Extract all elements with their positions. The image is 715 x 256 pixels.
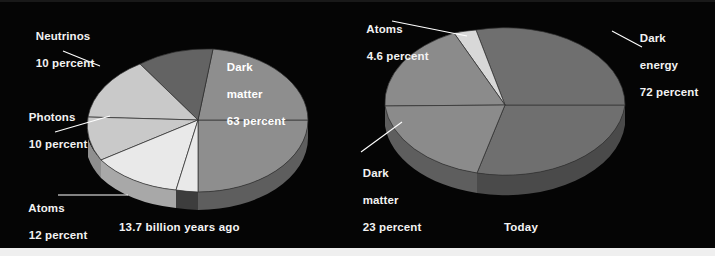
- left-label-photons-percent: 10 percent: [29, 138, 88, 150]
- right-label-dark-energy-l2: energy: [640, 59, 678, 71]
- right-label-atoms: Atoms 4.6 percent: [347, 9, 429, 77]
- left-label-dark-matter-l2: matter: [227, 88, 263, 100]
- left-label-dark-matter: Dark matter 63 percent: [207, 47, 285, 142]
- right-label-dark-energy-l1: Dark: [640, 32, 666, 44]
- right-label-dark-energy: Dark energy 72 percent: [620, 18, 698, 113]
- left-label-dark-matter-percent: 63 percent: [227, 115, 286, 127]
- right-label-dark-matter-l1: Dark: [363, 167, 389, 179]
- left-label-neutrinos-percent: 10 percent: [36, 57, 95, 69]
- left-label-atoms-name: Atoms: [28, 202, 64, 214]
- left-label-neutrinos-name: Neutrinos: [36, 30, 91, 42]
- right-pie-panel: Atoms 4.6 percent Dark matter 23 percent…: [357, 0, 715, 248]
- right-chart-caption: Today: [504, 221, 538, 233]
- right-label-atoms-percent: 4.6 percent: [367, 50, 429, 62]
- left-label-photons-name: Photons: [29, 111, 76, 123]
- right-label-dark-matter-percent: 23 percent: [363, 221, 422, 233]
- left-pie-panel: Neutrinos 10 percent Photons 10 percent …: [0, 0, 357, 248]
- left-slice-side-dark-matter-2: [176, 190, 198, 210]
- left-chart-caption: 13.7 billion years ago: [119, 221, 240, 233]
- left-label-atoms-percent: 12 percent: [29, 229, 88, 241]
- right-label-dark-energy-percent: 72 percent: [640, 86, 699, 98]
- left-label-photons: Photons 10 percent: [9, 97, 87, 165]
- right-label-dark-matter: Dark matter 23 percent: [343, 153, 421, 248]
- left-label-neutrinos: Neutrinos 10 percent: [16, 16, 94, 84]
- right-label-dark-matter-l2: matter: [363, 194, 399, 206]
- bottom-white-strip: [0, 248, 715, 256]
- left-label-dark-matter-l1: Dark: [227, 61, 253, 73]
- left-label-atoms: Atoms 12 percent: [9, 188, 87, 256]
- cosmic-composition-figure: Neutrinos 10 percent Photons 10 percent …: [0, 0, 715, 256]
- right-label-atoms-name: Atoms: [366, 23, 402, 35]
